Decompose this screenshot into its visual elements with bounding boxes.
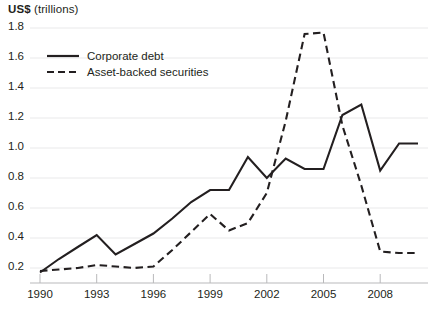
- y-axis-tick-label: 0.2: [8, 260, 24, 272]
- chart-container: US$ (trillions) 0.20.40.60.81.01.21.41.6…: [0, 0, 428, 310]
- chart-legend: Corporate debt Asset-backed securities: [46, 48, 208, 80]
- chart-plot-area: [0, 0, 428, 310]
- legend-item-corporate-debt: Corporate debt: [46, 48, 208, 64]
- legend-label-asset-backed-securities: Asset-backed securities: [87, 64, 208, 80]
- legend-item-asset-backed-securities: Asset-backed securities: [46, 64, 208, 80]
- y-axis-tick-label: 1.6: [8, 50, 24, 62]
- legend-swatch-solid-line-icon: [46, 50, 80, 62]
- legend-label-corporate-debt: Corporate debt: [87, 48, 164, 64]
- legend-swatch-dashed-line-icon: [46, 66, 80, 78]
- x-axis-tick-label: 1990: [27, 288, 53, 300]
- y-axis-tick-label: 1.2: [8, 110, 24, 122]
- x-axis-tick-label: 2005: [311, 288, 337, 300]
- y-axis-tick-label: 0.6: [8, 200, 24, 212]
- x-axis-tick-label: 1996: [141, 288, 167, 300]
- y-axis-tick-label: 1.8: [8, 20, 24, 32]
- x-axis-tick-label: 1993: [84, 288, 110, 300]
- y-axis-tick-label: 1.0: [8, 140, 24, 152]
- x-axis-tick-label: 1999: [197, 288, 223, 300]
- x-axis-tick-label: 2008: [367, 288, 393, 300]
- y-axis-tick-label: 0.4: [8, 230, 24, 242]
- x-axis-ticks-group: [40, 274, 380, 283]
- x-axis-tick-label: 2002: [254, 288, 280, 300]
- y-axis-tick-label: 0.8: [8, 170, 24, 182]
- y-axis-tick-label: 1.4: [8, 80, 24, 92]
